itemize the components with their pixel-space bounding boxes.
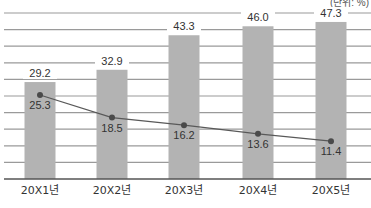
line-point-marker	[37, 92, 43, 98]
line-value-label: 16.2	[173, 129, 194, 141]
combo-chart: 29.232.943.346.047.325.318.516.213.611.4…	[0, 0, 371, 208]
line-point-marker	[328, 138, 334, 144]
bar-value-label: 43.3	[173, 20, 194, 32]
line-value-label: 18.5	[101, 122, 122, 134]
x-axis-category-label: 20X3년	[165, 184, 204, 197]
bar-value-label: 46.0	[247, 11, 268, 23]
x-axis-category-label: 20X2년	[93, 184, 132, 197]
line-point-marker	[109, 115, 115, 121]
x-axis-category-label: 20X1년	[21, 184, 60, 197]
bar-value-label: 32.9	[101, 55, 122, 67]
line-value-label: 25.3	[29, 99, 50, 111]
bar	[169, 35, 200, 179]
line-value-label: 13.6	[247, 138, 268, 150]
line-value-label: 11.4	[321, 145, 342, 157]
x-axis-category-label: 20X5년	[312, 184, 351, 197]
bar-value-label: 29.2	[29, 67, 50, 79]
x-axis-category-label: 20X4년	[239, 184, 278, 197]
bar	[243, 26, 274, 179]
line-point-marker	[181, 122, 187, 128]
line-point-marker	[255, 131, 261, 137]
bar-value-label: 47.3	[320, 7, 341, 19]
